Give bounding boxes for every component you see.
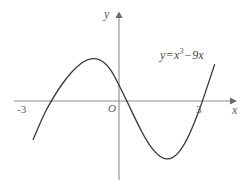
cubic-curve-path — [33, 59, 214, 159]
equation-equals-sign: = — [165, 48, 174, 62]
function-graph-figure: y x O -3 3 y=x3−9x — [0, 0, 247, 184]
plot-canvas — [0, 0, 247, 184]
equation-minus-sign: − — [183, 48, 192, 62]
x-tick-label-positive-three: 3 — [196, 104, 202, 115]
y-axis-arrow-icon — [115, 12, 122, 19]
x-axis-label: x — [232, 104, 237, 116]
y-axis-label: y — [104, 8, 109, 20]
x-tick-label-negative-three: -3 — [17, 104, 26, 115]
equation-annotation: y=x3−9x — [160, 48, 204, 61]
origin-label: O — [108, 103, 116, 114]
equation-linear-term: 9x — [192, 48, 203, 62]
